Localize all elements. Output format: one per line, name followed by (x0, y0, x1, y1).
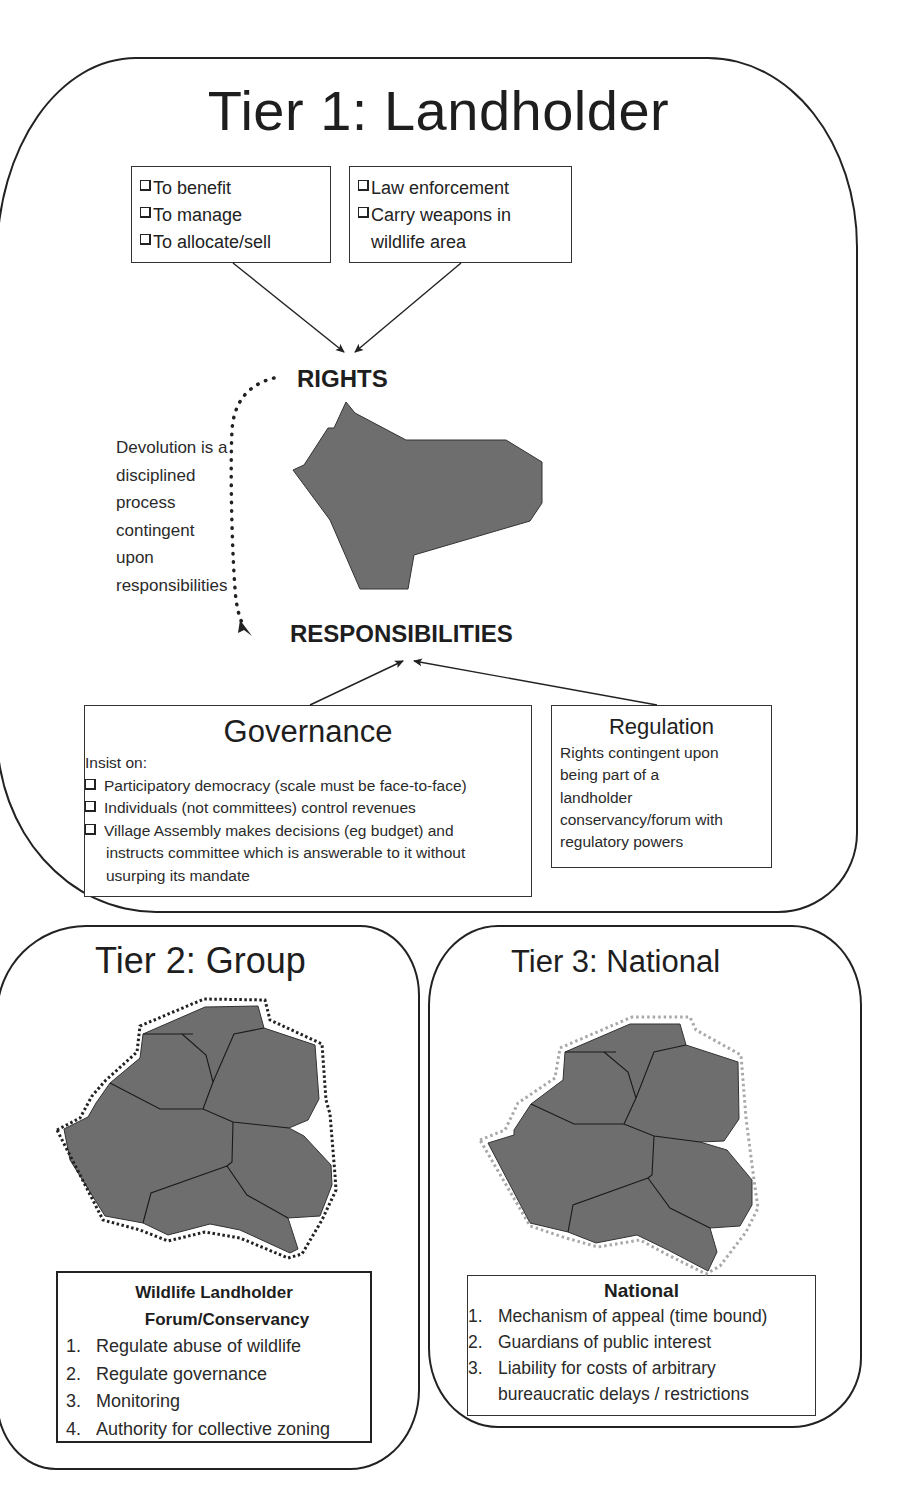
group-parcels (57, 999, 336, 1258)
arrows-to-rights (233, 263, 461, 352)
national-parcels (480, 1017, 758, 1274)
arrows-to-responsibilities (310, 661, 657, 705)
diagram-graphics (0, 0, 905, 1499)
devolution-dotted-arrow (231, 378, 274, 636)
landholder-parcel (293, 402, 542, 589)
